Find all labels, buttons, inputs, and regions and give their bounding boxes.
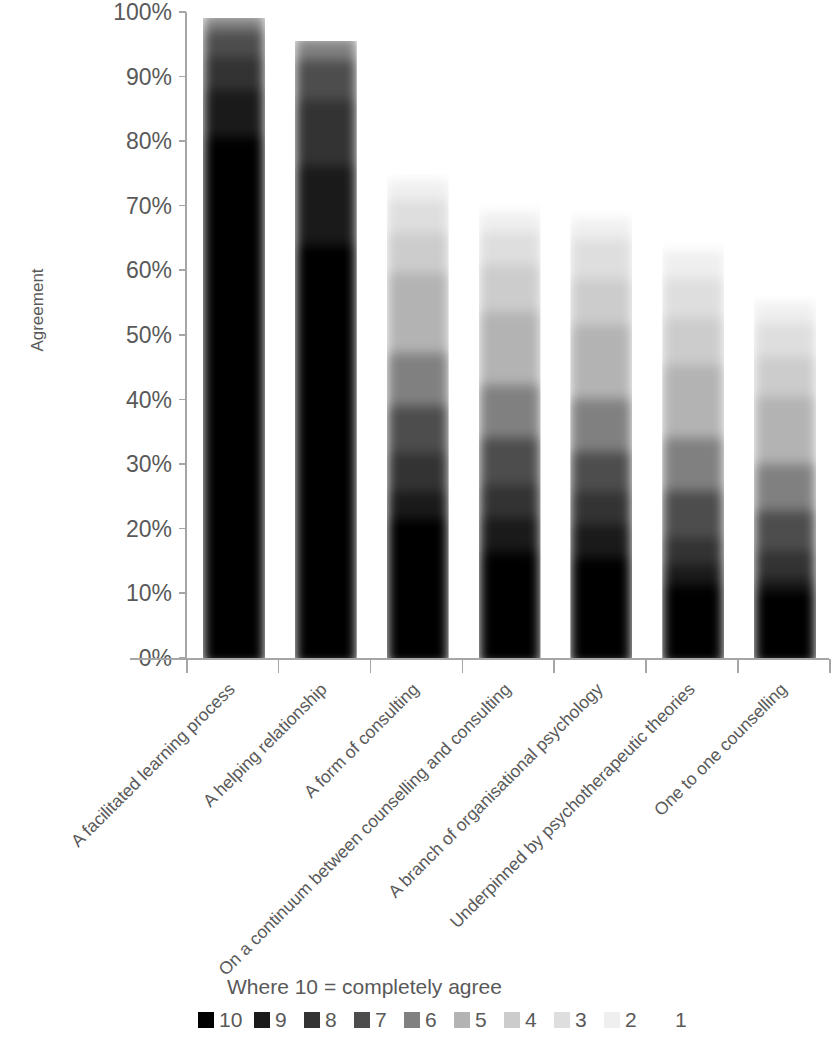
legend-item-1[interactable]: 1	[654, 1007, 687, 1033]
y-tick-label: 90%	[100, 65, 172, 88]
bar-segment-stack	[570, 199, 632, 658]
x-category-label-1: A facilitated learning process	[61, 679, 240, 858]
legend-swatch-icon	[654, 1012, 670, 1028]
legend-swatch-icon	[504, 1012, 520, 1028]
bar-segment-stack	[754, 290, 816, 658]
y-tick-label: 70%	[100, 194, 172, 217]
bar-6[interactable]	[662, 238, 724, 658]
x-tick-mark	[645, 659, 647, 673]
bar-segment-stack	[662, 238, 724, 658]
y-tick-label: 80%	[100, 130, 172, 153]
bar-segment-stack	[203, 18, 265, 658]
legend-label: 1	[675, 1007, 687, 1033]
bar-5[interactable]	[570, 199, 632, 658]
legend-label: 6	[425, 1007, 437, 1033]
legend-item-2[interactable]: 2	[604, 1007, 637, 1033]
legend-label: 2	[625, 1007, 637, 1033]
legend-item-3[interactable]: 3	[554, 1007, 587, 1033]
x-tick-mark	[186, 659, 188, 673]
bar-7[interactable]	[754, 290, 816, 658]
x-tick-mark	[278, 659, 280, 673]
x-tick-mark	[829, 659, 831, 673]
legend-label: 7	[375, 1007, 387, 1033]
bar-segment-stack	[295, 41, 357, 658]
legend-label: 8	[325, 1007, 337, 1033]
y-tick-label: 20%	[100, 517, 172, 540]
x-tick-mark	[737, 659, 739, 673]
y-tick-label: 60%	[100, 259, 172, 282]
legend-item-6[interactable]: 6	[404, 1007, 437, 1033]
y-tick-label: 50%	[100, 324, 172, 347]
y-tick-label: 30%	[100, 453, 172, 476]
y-tick-label: 40%	[100, 388, 172, 411]
legend-swatch-icon	[554, 1012, 570, 1028]
legend-item-7[interactable]: 7	[354, 1007, 387, 1033]
legend-item-9[interactable]: 9	[254, 1007, 287, 1033]
bar-segment-stack	[387, 174, 449, 659]
plot-area	[186, 12, 829, 658]
bar-4[interactable]	[479, 199, 541, 658]
legend-swatch-icon	[254, 1012, 270, 1028]
x-axis-line	[130, 658, 829, 660]
bar-3[interactable]	[387, 174, 449, 659]
bar-1[interactable]	[203, 18, 265, 658]
y-tick-label: 10%	[100, 582, 172, 605]
legend-swatch-icon	[354, 1012, 370, 1028]
legend-item-10[interactable]: 10	[198, 1007, 242, 1033]
y-axis-title: Agreement	[28, 250, 48, 370]
legend-item-8[interactable]: 8	[304, 1007, 337, 1033]
legend-item-4[interactable]: 4	[504, 1007, 537, 1033]
legend-swatch-icon	[604, 1012, 620, 1028]
legend-title: Where 10 = completely agree	[227, 975, 502, 999]
legend-label: 10	[219, 1007, 242, 1033]
x-tick-mark	[553, 659, 555, 673]
y-tick-label: 100%	[100, 1, 172, 24]
legend-swatch-icon	[404, 1012, 420, 1028]
legend-swatch-icon	[454, 1012, 470, 1028]
legend-label: 3	[575, 1007, 587, 1033]
legend-label: 4	[525, 1007, 537, 1033]
bar-2[interactable]	[295, 41, 357, 658]
legend-label: 9	[275, 1007, 287, 1033]
legend-swatch-icon	[304, 1012, 320, 1028]
legend-label: 5	[475, 1007, 487, 1033]
x-tick-mark	[462, 659, 464, 673]
legend-swatch-icon	[198, 1012, 214, 1028]
x-tick-mark	[370, 659, 372, 673]
legend-item-5[interactable]: 5	[454, 1007, 487, 1033]
bar-segment-stack	[479, 199, 541, 658]
